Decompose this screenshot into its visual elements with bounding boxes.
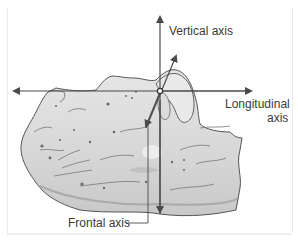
calcaneus-diagram bbox=[0, 0, 298, 244]
longitudinal-axis-label-line2: axis bbox=[267, 112, 288, 125]
vertical-axis-label: Vertical axis bbox=[169, 25, 233, 38]
bone-shadow bbox=[130, 167, 158, 173]
longitudinal-axis-label-line1: Longitudinal bbox=[225, 98, 290, 111]
frontal-axis-label: Frontal axis bbox=[68, 217, 130, 230]
bone-highlight bbox=[142, 145, 162, 159]
axes-intersection-point bbox=[157, 88, 162, 93]
